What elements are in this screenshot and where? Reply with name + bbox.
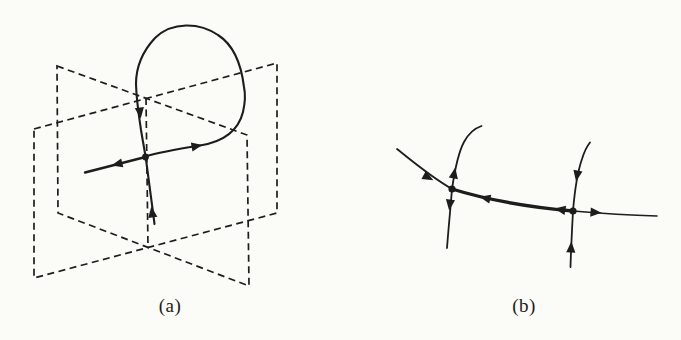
left-saddle-upper-branch <box>452 126 482 189</box>
right-saddle-lower-branch <box>571 211 574 267</box>
arrowhead-left-saddle-up-icon <box>449 167 460 179</box>
homoclinic-loop-curve <box>136 25 245 156</box>
manifold-plane-front <box>57 66 249 286</box>
scanned-textbook-figure: (a) (b) <box>0 0 681 340</box>
subfigure-a <box>34 25 277 286</box>
left-saddle-lower-branch <box>447 189 452 248</box>
arrowhead-left-icon <box>110 158 123 170</box>
subfigure-b <box>397 126 657 267</box>
heteroclinic-connector-curve <box>452 189 573 211</box>
phase-portrait-diagram <box>0 0 681 340</box>
arrowhead-left-saddle-down-icon <box>445 199 455 211</box>
caption-subfigure-b: (b) <box>512 295 536 317</box>
caption-subfigure-a: (a) <box>159 295 182 317</box>
arrowhead-right-saddle-up-icon <box>566 241 576 252</box>
outgoing-curve <box>573 211 657 216</box>
saddle-point-a <box>142 154 149 161</box>
incoming-curve <box>397 149 452 189</box>
saddle-point-b-left <box>448 185 455 192</box>
arrowhead-outgoing-icon <box>590 207 602 217</box>
arrowhead-down-into-saddle-icon <box>135 107 145 119</box>
manifold-plane-back <box>34 63 277 278</box>
saddle-point-b-right <box>569 207 576 214</box>
